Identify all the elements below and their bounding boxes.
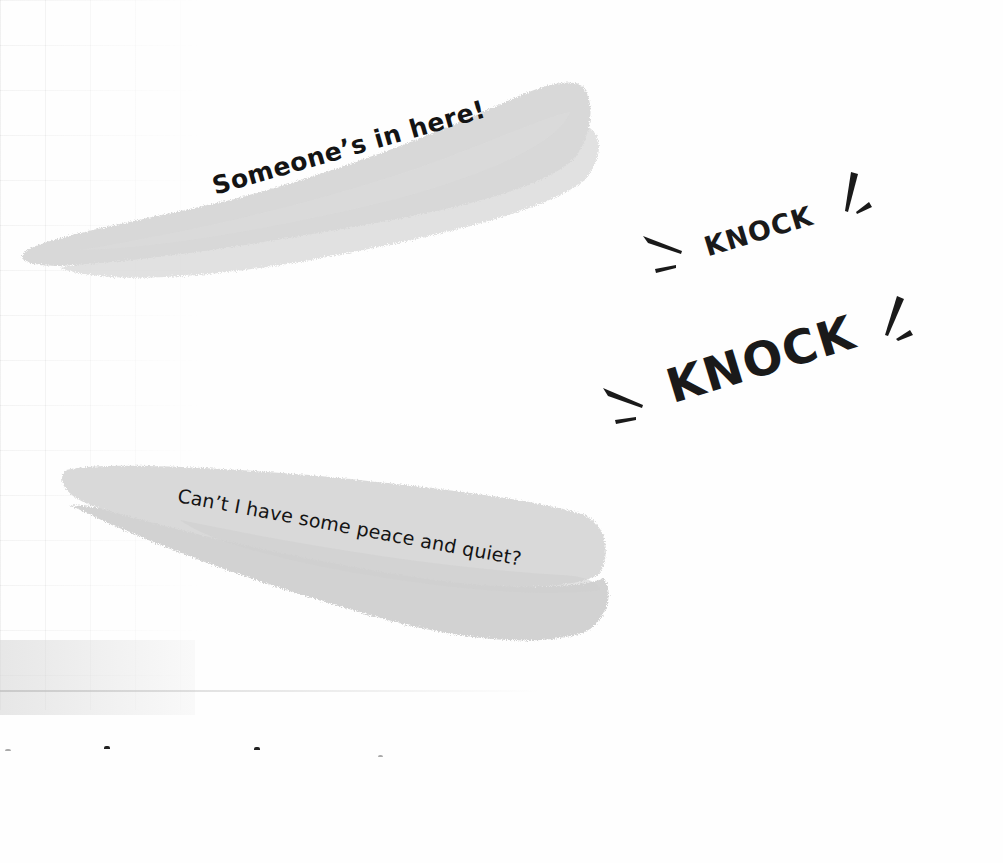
burst-lines: [0, 0, 1003, 863]
book-page: Someone’s in here! Can’t I have some pea…: [0, 0, 1003, 863]
burst-lines-icon: [603, 388, 643, 424]
burst-lines-icon: [643, 236, 682, 273]
burst-lines-icon: [885, 296, 913, 341]
burst-lines-icon: [845, 172, 872, 214]
